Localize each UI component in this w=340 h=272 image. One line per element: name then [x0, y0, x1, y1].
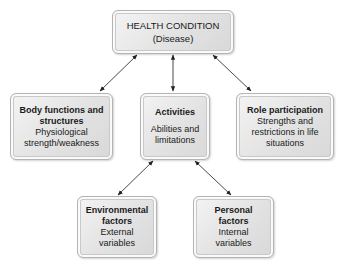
node-environmental-factors: Environmental factors External variables	[77, 196, 157, 258]
node-title: Role participation	[247, 105, 323, 116]
node-role-participation: Role participation Strengths and restric…	[236, 93, 334, 160]
node-health-condition: HEALTH CONDITION (Disease)	[112, 10, 234, 54]
edge-health-to-body	[100, 55, 137, 91]
node-personal-factors: Personal factors Internal variables	[193, 196, 274, 258]
node-activities: Activities Abilities and limitations	[140, 93, 210, 160]
node-title-line1: Personal	[214, 205, 252, 216]
node-title-line1: Environmental	[86, 205, 149, 216]
node-desc-line3: situations	[266, 138, 304, 149]
node-desc-line2: variables	[99, 238, 135, 249]
node-desc-line2: restrictions in life	[251, 127, 318, 138]
node-desc-line2: strength/weakness	[24, 138, 99, 149]
edge-health-to-role	[213, 55, 251, 91]
node-title: Activities	[155, 107, 195, 118]
node-subtitle: (Disease)	[153, 32, 194, 45]
node-desc-line1: External	[100, 227, 133, 238]
node-desc-line1: Physiological	[35, 127, 88, 138]
node-title-line2: factors	[218, 216, 248, 227]
node-title: HEALTH CONDITION	[127, 19, 220, 32]
node-body-functions: Body functions and structures Physiologi…	[10, 93, 113, 160]
node-title-line1: Body functions and	[20, 105, 104, 116]
node-desc-line2: limitations	[155, 135, 195, 146]
edge-activities-to-environmental	[118, 161, 153, 195]
node-title-line2: structures	[39, 116, 83, 127]
node-desc-line2: variables	[215, 238, 251, 249]
edge-activities-to-personal	[195, 161, 231, 195]
node-desc-line1: Abilities and	[151, 124, 200, 135]
node-desc-line1: Internal	[218, 227, 248, 238]
node-desc-line1: Strengths and	[257, 116, 313, 127]
node-title-line2: factors	[102, 216, 132, 227]
